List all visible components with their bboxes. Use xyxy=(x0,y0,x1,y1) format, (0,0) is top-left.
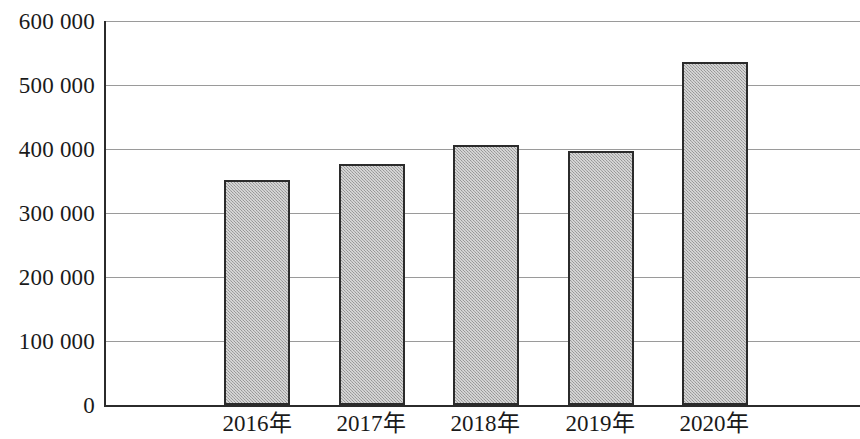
x-tick-label-2019: 2019年 xyxy=(535,411,665,437)
y-tick-label-200000: 200 000 xyxy=(0,266,95,289)
x-tick-label-2020: 2020年 xyxy=(649,411,779,437)
axis-baseline xyxy=(104,405,860,407)
x-tick-label-2016: 2016年 xyxy=(192,411,322,437)
y-tick-label-100000: 100 000 xyxy=(0,330,95,353)
x-tick-label-2017: 2017年 xyxy=(306,411,436,437)
y-tick-label-500000: 500 000 xyxy=(0,74,95,97)
gridline-600000 xyxy=(104,21,860,22)
y-tick-label-600000: 600 000 xyxy=(0,10,95,33)
x-tick-label-2018: 2018年 xyxy=(420,411,550,437)
y-tick-label-400000: 400 000 xyxy=(0,138,95,161)
y-axis-line xyxy=(104,21,106,407)
bar-chart: 600 000 500 000 400 000 300 000 200 000 … xyxy=(0,0,860,439)
bar-2016 xyxy=(224,180,290,405)
bar-2017 xyxy=(339,164,405,405)
bar-2019 xyxy=(568,151,634,405)
bar-2020 xyxy=(682,62,748,405)
bar-2018 xyxy=(453,145,519,405)
y-tick-label-0: 0 xyxy=(0,394,95,417)
y-tick-label-300000: 300 000 xyxy=(0,202,95,225)
